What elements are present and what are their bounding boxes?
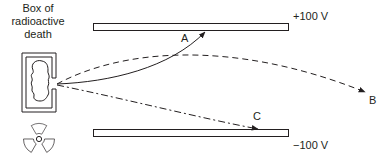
title-line-1: Box of [4, 2, 72, 15]
trajectory-b [57, 55, 365, 92]
top-plate-voltage-label: +100 V [293, 10, 328, 23]
trajectory-c [57, 85, 258, 129]
radiation-trefoil-icon [22, 124, 57, 154]
title-line-3: death [4, 28, 72, 41]
source-box-title: Box of radioactive death [4, 2, 72, 41]
trajectory-a-label: A [181, 32, 188, 45]
bottom-plate-voltage-label: −100 V [293, 139, 328, 152]
source-box [22, 53, 56, 112]
trajectory-b-label: B [369, 94, 376, 107]
title-line-2: radioactive [4, 15, 72, 28]
trajectory-c-label: C [253, 110, 261, 123]
bottom-plate [94, 130, 289, 137]
radioactive-sample-icon [31, 61, 49, 101]
top-plate [94, 24, 289, 31]
